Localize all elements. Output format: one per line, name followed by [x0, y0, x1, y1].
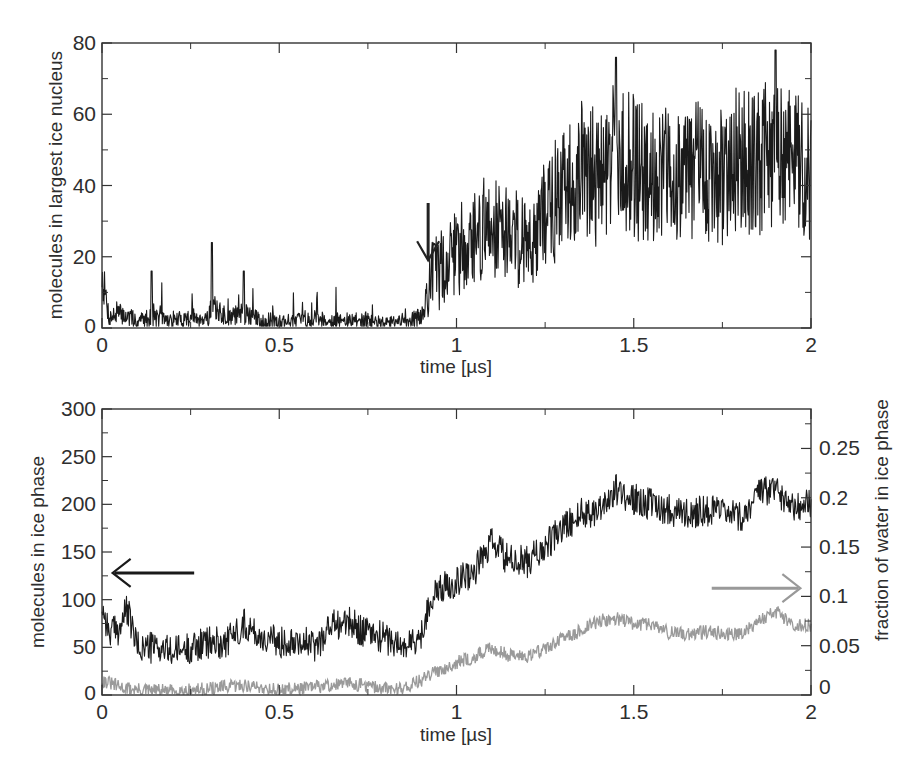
bottom-series-lines [102, 475, 811, 694]
x-tick-label: 0.5 [265, 333, 294, 356]
y-tick-label: 0 [84, 314, 96, 337]
top-series-line [102, 50, 811, 326]
bottom-ylabel-right: fraction of water in ice phase [871, 399, 892, 641]
bottom-axis-ticks: 00.511.5205010015020025030000.050.10.150… [61, 397, 860, 723]
x-tick-label: 0 [96, 700, 108, 723]
bottom-panel: 00.511.5205010015020025030000.050.10.150… [27, 397, 892, 745]
y-tick-label: 300 [61, 397, 96, 420]
y-tick-label: 150 [61, 540, 96, 563]
x-tick-label: 1.5 [619, 333, 648, 356]
y-right-tick-label: 0 [819, 675, 831, 698]
top-series-path [102, 50, 811, 326]
y-tick-label: 200 [61, 492, 96, 515]
y-tick-label: 0 [84, 681, 96, 704]
x-tick-label: 2 [805, 700, 817, 723]
y-tick-label: 50 [73, 635, 96, 658]
x-tick-label: 1.5 [619, 700, 648, 723]
x-tick-label: 1 [451, 700, 463, 723]
bottom-ylabel-left: molecules in ice phase [27, 456, 48, 648]
y-right-tick-label: 0.25 [819, 436, 860, 459]
y-tick-label: 40 [73, 174, 96, 197]
x-tick-label: 0.5 [265, 700, 294, 723]
x-tick-label: 0 [96, 333, 108, 356]
y-right-tick-label: 0.1 [819, 584, 848, 607]
top-panel: 00.511.52020406080 time [µs] molecules i… [45, 31, 817, 377]
x-tick-label: 2 [805, 333, 817, 356]
y-tick-label: 100 [61, 588, 96, 611]
figure: 00.511.52020406080 time [µs] molecules i… [0, 0, 917, 770]
bottom-xlabel: time [µs] [420, 724, 492, 745]
y-tick-label: 80 [73, 31, 96, 54]
y-right-tick-label: 0.2 [819, 486, 848, 509]
y-tick-label: 20 [73, 245, 96, 268]
x-tick-label: 1 [451, 333, 463, 356]
y-right-tick-label: 0.05 [819, 634, 860, 657]
y-tick-label: 60 [73, 102, 96, 125]
y-tick-label: 250 [61, 445, 96, 468]
top-xlabel: time [µs] [420, 356, 492, 377]
top-ylabel: molecules in largest ice nucleus [45, 51, 66, 319]
y-right-tick-label: 0.15 [819, 535, 860, 558]
